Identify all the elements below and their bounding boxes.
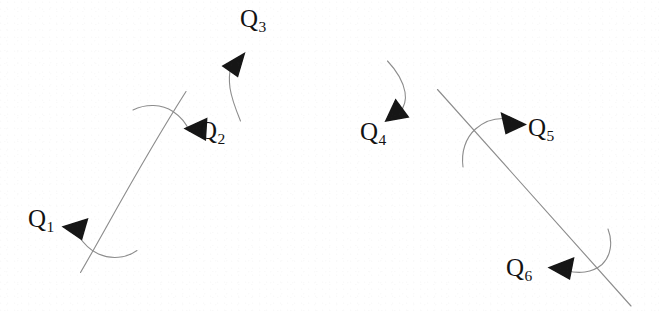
label-q3-subscript: 3 bbox=[258, 18, 266, 35]
label-q5-subscript: 5 bbox=[546, 127, 554, 144]
q5-arrowhead bbox=[501, 112, 528, 135]
q1-arrow-tail bbox=[79, 236, 138, 258]
label-q3: Q3 bbox=[240, 6, 266, 31]
label-q3-base: Q bbox=[240, 5, 258, 32]
label-q2-subscript: 2 bbox=[217, 130, 225, 147]
q2-arrow-tail bbox=[133, 105, 190, 131]
q5-arrow-tail bbox=[463, 118, 505, 167]
label-q1: Q1 bbox=[28, 206, 54, 231]
label-q6-base: Q bbox=[506, 254, 524, 281]
label-q5-base: Q bbox=[528, 114, 546, 141]
q6-arrow-tail bbox=[567, 229, 611, 272]
left-diagonal-line bbox=[81, 92, 187, 273]
label-q4-subscript: 4 bbox=[378, 131, 386, 148]
diagram-canvas: Q1 Q2 Q3 Q4 Q5 Q6 bbox=[0, 0, 659, 312]
left-group bbox=[62, 52, 246, 273]
label-q5: Q5 bbox=[528, 115, 554, 140]
label-q4-base: Q bbox=[360, 118, 378, 145]
q1-arrowhead bbox=[62, 218, 89, 241]
diagram-svg bbox=[0, 0, 659, 312]
label-q6: Q6 bbox=[506, 255, 532, 280]
q6-arrowhead bbox=[548, 257, 575, 280]
label-q2-base: Q bbox=[199, 117, 217, 144]
q4-arrowhead bbox=[385, 99, 410, 123]
label-q1-subscript: 1 bbox=[46, 218, 54, 235]
label-q1-base: Q bbox=[28, 205, 46, 232]
label-q2: Q2 bbox=[199, 118, 225, 143]
q3-arrowhead bbox=[222, 52, 246, 78]
label-q6-subscript: 6 bbox=[524, 267, 532, 284]
label-q4: Q4 bbox=[360, 119, 386, 144]
